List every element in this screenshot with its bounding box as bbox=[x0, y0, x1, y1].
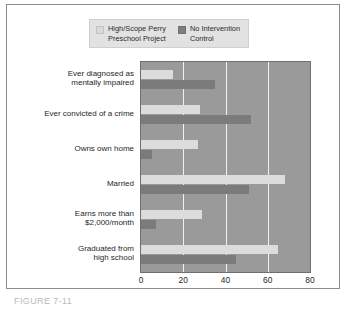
bar bbox=[141, 105, 200, 114]
bar-chart: High/Scope Perry Preschool Project No In… bbox=[7, 5, 341, 290]
value-axis-labels: 020406080 bbox=[140, 275, 311, 289]
category-label: Ever convicted of a crime bbox=[9, 109, 134, 119]
bar bbox=[141, 210, 202, 219]
category-axis-labels: Ever diagnosed as mentally impairedEver … bbox=[7, 61, 134, 273]
bar-group bbox=[141, 132, 310, 167]
category-label: Ever diagnosed as mentally impaired bbox=[9, 69, 134, 89]
bar bbox=[141, 150, 152, 159]
chart-legend: High/Scope Perry Preschool Project No In… bbox=[89, 19, 249, 48]
bar bbox=[141, 255, 236, 264]
bar-group bbox=[141, 62, 310, 97]
legend-swatch-light-gray-icon bbox=[96, 26, 104, 34]
x-tick-label: 0 bbox=[139, 275, 144, 285]
legend-label-perry: High/Scope Perry Preschool Project bbox=[108, 24, 166, 43]
bar bbox=[141, 220, 156, 229]
bar bbox=[141, 175, 285, 184]
legend-label-control: No Intervention Control bbox=[190, 24, 240, 43]
x-tick-label: 20 bbox=[179, 275, 188, 285]
category-label: Owns own home bbox=[9, 144, 134, 154]
legend-entry-perry: High/Scope Perry Preschool Project bbox=[96, 24, 166, 43]
category-label: Married bbox=[9, 179, 134, 189]
bar bbox=[141, 185, 249, 194]
x-tick-label: 40 bbox=[221, 275, 230, 285]
figure-frame: High/Scope Perry Preschool Project No In… bbox=[6, 4, 340, 289]
bar-group bbox=[141, 202, 310, 237]
figure-caption-sliver: FIGURE 7-11 bbox=[14, 296, 72, 305]
bar bbox=[141, 115, 251, 124]
category-label: Graduated from high school bbox=[9, 244, 134, 264]
plot-area bbox=[140, 61, 311, 273]
bar bbox=[141, 70, 173, 79]
bar bbox=[141, 245, 278, 254]
x-tick-label: 60 bbox=[263, 275, 272, 285]
bar-group bbox=[141, 167, 310, 202]
x-tick-label: 80 bbox=[305, 275, 314, 285]
category-label: Earns more than $2,000/month bbox=[9, 209, 134, 229]
bar-group bbox=[141, 237, 310, 272]
legend-entry-control: No Intervention Control bbox=[178, 24, 240, 43]
legend-swatch-dark-gray-icon bbox=[178, 26, 186, 34]
bar bbox=[141, 80, 215, 89]
bar-group bbox=[141, 97, 310, 132]
bar bbox=[141, 140, 198, 149]
